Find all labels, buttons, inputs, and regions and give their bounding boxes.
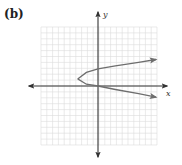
x-axis-label: x <box>166 89 171 98</box>
parabola-lower-branch <box>78 79 156 97</box>
panel-label: (b) <box>4 7 24 21</box>
y-axis-label: y <box>102 10 108 19</box>
graph-figure: (b) x y <box>0 0 182 165</box>
